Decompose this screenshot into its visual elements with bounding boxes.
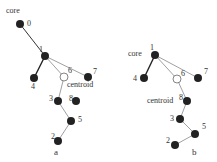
label-5: 5 [202,122,206,131]
node-4 [140,74,148,82]
node-0 [16,20,24,28]
caption-a: a [54,147,58,157]
diagram-a: core 0 1 4 6 7 centroid 3 8 5 2 a [6,6,97,157]
label-3: 3 [49,94,53,103]
core-label-b: core [128,49,142,58]
edge-1-6 [155,55,177,79]
edge-1-7 [155,55,198,78]
node-6 [173,75,181,83]
node-5 [191,130,199,138]
diagram-b: core 1 4 6 7 centroid 8 3 5 2 b [128,43,208,157]
label-1: 1 [39,45,43,54]
node-8-centroid [183,97,191,105]
node-8 [72,97,80,105]
centroid-label-a: centroid [67,80,93,89]
label-1: 1 [150,43,154,52]
caption-b: b [192,147,197,157]
label-6: 6 [181,69,185,78]
label-8: 8 [179,93,183,102]
node-7 [194,74,202,82]
label-3: 3 [170,114,174,123]
node-2 [171,141,179,149]
label-4: 4 [31,82,35,91]
centroid-label-b: centroid [147,96,173,105]
node-4 [30,74,38,82]
label-2: 2 [51,132,55,141]
label-5: 5 [78,115,82,124]
node-5 [67,117,75,125]
node-3 [54,97,62,105]
label-0: 0 [27,19,31,28]
node-1 [151,51,159,59]
label-2: 2 [166,136,170,145]
label-7: 7 [204,67,208,76]
core-label-a: core [6,6,20,15]
node-2 [54,137,62,145]
label-8: 8 [69,94,73,103]
label-7: 7 [93,67,97,76]
node-3 [176,115,184,123]
label-6: 6 [68,66,72,75]
label-4: 4 [133,74,137,83]
tree-diagrams: core 0 1 4 6 7 centroid 3 8 5 2 a core [0,0,217,162]
